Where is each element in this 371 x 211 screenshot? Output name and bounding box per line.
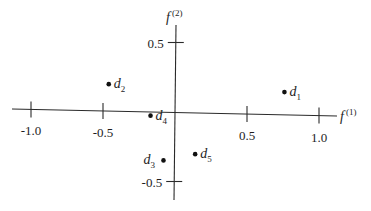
point-label: d1 — [289, 84, 301, 102]
point-marker — [106, 82, 111, 87]
data-points: d1d2d3d4d5 — [106, 76, 300, 170]
point-marker — [282, 90, 287, 95]
point-marker — [161, 158, 166, 163]
y-tick-label: -0.5 — [142, 175, 163, 190]
data-point-d4: d4 — [148, 108, 167, 126]
point-label: d5 — [200, 146, 212, 164]
scatter-chart: -1.0-0.50.51.0 0.5-0.5 f(1) f(2) d1d2d3d… — [0, 0, 371, 211]
x-tick-label: 1.0 — [311, 130, 327, 145]
x-tick-label: -0.5 — [93, 125, 114, 140]
point-marker — [148, 113, 153, 118]
x-ticks: -1.0-0.50.51.0 — [21, 101, 327, 144]
data-point-d5: d5 — [193, 146, 212, 164]
y-tick-label: 0.5 — [148, 36, 164, 51]
point-label: d3 — [143, 152, 155, 170]
x-tick-label: 0.5 — [239, 128, 255, 143]
data-point-d2: d2 — [106, 76, 125, 94]
data-point-d3: d3 — [143, 152, 165, 170]
x-axis-label: f(1) — [340, 107, 356, 124]
point-label: d4 — [156, 108, 168, 126]
point-marker — [193, 152, 198, 157]
point-label: d2 — [114, 76, 126, 94]
data-point-d1: d1 — [282, 84, 301, 102]
y-axis-label: f(2) — [166, 8, 182, 25]
x-tick-label: -1.0 — [21, 123, 42, 138]
